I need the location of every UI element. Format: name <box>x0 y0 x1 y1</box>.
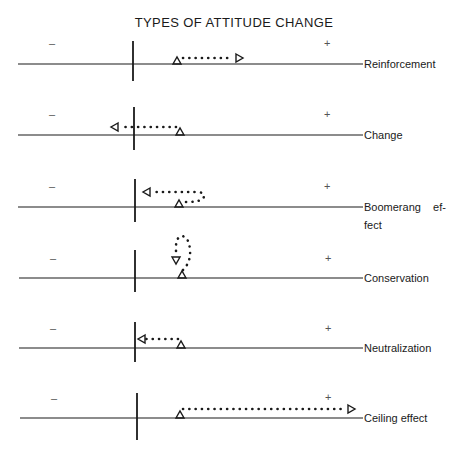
row-label-boomerang-cont: fect <box>364 216 382 234</box>
row-label-change: Change <box>364 126 403 144</box>
initial-position-marker <box>176 411 184 418</box>
arrowhead-left-icon <box>143 188 150 196</box>
arrowhead-down-icon <box>172 257 180 264</box>
initial-position-marker <box>176 128 184 135</box>
row-label-ceiling-effect: Ceiling effect <box>364 409 427 427</box>
row-label-conservation: Conservation <box>364 269 429 287</box>
initial-position-marker <box>173 57 181 64</box>
arrowhead-right-icon <box>236 54 243 62</box>
initial-position-marker <box>175 200 183 207</box>
change-path-conservation <box>176 236 190 270</box>
row-label-boomerang: Boomerang ef- <box>364 198 446 216</box>
row-label-reinforcement: Reinforcement <box>364 55 436 73</box>
arrowhead-right-icon <box>348 405 355 413</box>
row-label-neutralization: Neutralization <box>364 339 431 357</box>
arrowhead-left-icon <box>138 335 145 343</box>
initial-position-marker <box>178 271 186 278</box>
initial-position-marker <box>177 341 185 348</box>
change-path-boomerang <box>151 192 204 202</box>
arrowhead-left-icon <box>111 123 118 131</box>
